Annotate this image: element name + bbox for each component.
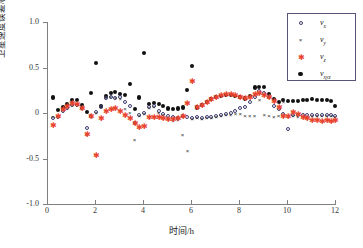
x-axis-line [47,204,336,205]
x-tick-label: 8 [228,206,250,215]
x-tick-label: 12 [324,206,346,215]
legend-marker-cross-icon: × [297,38,304,45]
legend-label-v_xyz: vxyz [320,69,331,80]
y-tick-label: 1.0 [13,18,39,26]
legend-label-v_z: vz [320,52,326,63]
legend-marker-open-circle-icon [297,21,304,28]
satellite-velocity-error-chart: 1.00.50-0.5-1.0 024681012 卫星速度误差/(10⁻²m/… [0,0,363,248]
x-tick-mark [335,200,336,204]
legend-item-v_z[interactable]: ✱vz [288,49,357,66]
y-tick-label: 0 [13,109,39,117]
legend-label-v_y: vy [320,35,326,46]
legend-item-v_x[interactable]: vx [288,15,357,32]
legend-label-v_x: vx [320,18,326,29]
y-tick-mark [43,204,47,205]
x-tick-label: 6 [180,206,202,215]
x-tick-label: 0 [36,206,58,215]
legend-item-v_y[interactable]: ×vy [288,32,357,49]
x-tick-label: 10 [276,206,298,215]
legend: vx×vy✱vzvxyz [287,13,356,81]
legend-marker-filled-circle-icon [297,72,304,79]
y-tick-label: -0.5 [13,155,39,163]
y-axis-title: 卫星速度误差/(10⁻²m/s) [0,0,6,58]
x-tick-label: 2 [84,206,106,215]
x-axis-title: 时间/h [0,224,363,237]
y-tick-label: 0.5 [13,64,39,72]
x-tick-label: 4 [132,206,154,215]
legend-item-v_xyz[interactable]: vxyz [288,66,357,83]
legend-marker-red-star-icon: ✱ [297,55,304,62]
